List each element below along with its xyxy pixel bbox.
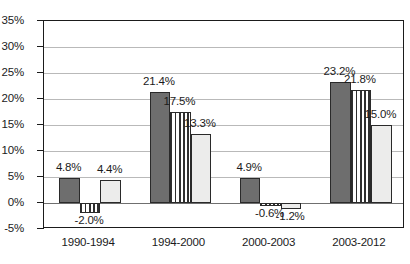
bar-value-label: 15.0% — [353, 108, 407, 120]
y-axis-tick-label: -5% — [0, 222, 24, 234]
bar — [59, 178, 80, 203]
y-axis-tick-label: 0% — [0, 196, 24, 208]
x-axis-category-label: 2000-2003 — [224, 236, 314, 248]
y-axis-tick-label: 30% — [0, 40, 24, 52]
gridline — [44, 47, 403, 48]
y-axis-tick-label: 10% — [0, 144, 24, 156]
bar-value-label: -1.2% — [263, 210, 317, 222]
y-axis-tick-label: 35% — [0, 14, 24, 26]
bar — [150, 92, 171, 203]
bar — [100, 180, 121, 203]
bar-value-label: 21.4% — [132, 75, 186, 87]
bar-value-label: -2.0% — [62, 214, 116, 226]
x-axis-category-label: 1994-2000 — [133, 236, 223, 248]
bar — [191, 134, 212, 203]
y-axis-tick-label: 5% — [0, 170, 24, 182]
bar-value-label: 17.5% — [152, 95, 206, 107]
y-axis-tick-mark — [37, 228, 44, 229]
y-axis-tick-label: 15% — [0, 118, 24, 130]
bar-value-label: 4.9% — [222, 161, 276, 173]
bar-value-label: 13.3% — [173, 117, 227, 129]
y-axis-tick-label: 20% — [0, 92, 24, 104]
bar-chart: 35%30%25%20%15%10%5%0%-5% 4.8%-2.0%4.4%2… — [0, 0, 410, 264]
x-axis-category-label: 2003-2012 — [314, 236, 404, 248]
bar — [351, 90, 372, 203]
bar — [371, 125, 392, 203]
bar-value-label: 4.4% — [83, 163, 137, 175]
bar — [260, 203, 281, 206]
bar — [80, 203, 101, 213]
bar — [240, 178, 261, 203]
y-axis-tick-label: 25% — [0, 66, 24, 78]
bar — [330, 82, 351, 203]
x-axis-category-label: 1990-1994 — [43, 236, 133, 248]
bar-value-label: 21.8% — [333, 73, 387, 85]
